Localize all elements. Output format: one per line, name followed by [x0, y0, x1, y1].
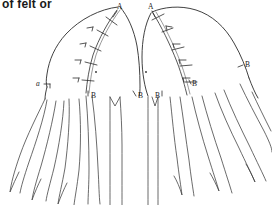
left-right-contour	[120, 7, 140, 96]
label-right-A-leader	[152, 11, 155, 17]
left-seam-inner	[89, 10, 120, 93]
left-pattern-piece: A a B B	[10, 2, 143, 205]
label-left-B2-text: B	[138, 91, 143, 100]
right-lappets	[148, 84, 272, 205]
label-left-a: a	[36, 79, 50, 88]
label-left-A-leader	[113, 11, 117, 17]
right-left-contour	[142, 13, 151, 96]
label-right-A-text: A	[148, 2, 154, 11]
diagram-svg: A a B B	[0, 0, 272, 205]
label-right-B3-text: B	[245, 60, 250, 69]
label-right-B3-leader	[238, 65, 243, 67]
label-left-B2-leader	[133, 91, 136, 96]
label-left-A: A	[113, 2, 123, 17]
label-right-A: A	[148, 2, 155, 17]
label-left-A-text: A	[117, 2, 123, 11]
left-lappets	[10, 96, 122, 205]
label-right-B1-text: B	[192, 79, 197, 88]
label-right-B1: B	[189, 79, 197, 88]
label-left-a-text: a	[36, 79, 40, 88]
marker-dot-right	[145, 71, 147, 73]
left-shoulder-contour	[45, 87, 47, 99]
left-outer-contour	[46, 7, 118, 87]
left-center-notch	[110, 97, 120, 106]
left-thread-hooks	[73, 27, 93, 82]
right-top-contour	[152, 7, 249, 78]
right-seam-outer	[153, 13, 187, 95]
left-seam-stitch-ticks	[82, 17, 117, 81]
right-thread-hooks	[166, 26, 190, 82]
right-pattern-piece: A B B B	[142, 2, 272, 205]
label-left-B2: B	[133, 91, 143, 100]
label-left-B1-text: B	[91, 91, 96, 100]
label-right-B2: B	[155, 91, 162, 100]
marker-dot-left	[95, 71, 97, 73]
pattern-diagram-root: of felt or	[0, 0, 272, 205]
